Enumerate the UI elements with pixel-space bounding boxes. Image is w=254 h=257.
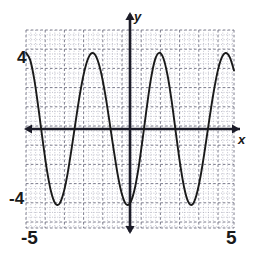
x-axis-tick-label-neg5: -5 bbox=[21, 228, 38, 247]
graph-figure: 4 -4 -5 5 y x bbox=[0, 0, 254, 257]
y-axis-arrow-down bbox=[125, 226, 134, 234]
y-axis-label: y bbox=[134, 10, 141, 23]
x-axis-tick-label-5: 5 bbox=[226, 228, 237, 247]
x-axis-label: x bbox=[238, 133, 245, 146]
y-axis-tick-label-4: 4 bbox=[17, 49, 26, 66]
y-axis-tick-label-neg4: -4 bbox=[9, 190, 24, 207]
coordinate-plane-svg bbox=[0, 0, 254, 257]
